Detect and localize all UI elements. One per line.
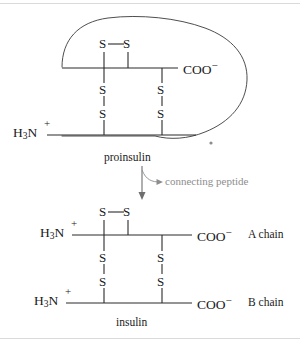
insulin-intrachain-s-left: S [99, 205, 106, 218]
proinsulin-intrachain-s-left: S [99, 37, 106, 50]
proinsulin-intrachain-s-right: S [123, 37, 130, 50]
proinsulin-n-terminus-element: N [28, 125, 38, 140]
insulin-a-chain-n-terminus-element: N [55, 225, 65, 240]
connecting-peptide-loop [62, 16, 247, 138]
proinsulin-n-terminus-charge: + [44, 118, 50, 129]
insulin-a-chain-n-terminus-charge: + [71, 218, 77, 229]
insulin-a-chain-c-terminus: COO− [197, 227, 232, 243]
insulin-intrachain-s-right: S [123, 205, 130, 218]
insulin-b-chain-c-terminus-text: COO [197, 297, 226, 312]
insulin-b-chain-label: B chain [248, 297, 283, 309]
loop-tail-dot [209, 141, 212, 144]
insulin-a-chain-label: A chain [248, 229, 283, 241]
insulin-interchain-right-s-top: S [157, 251, 164, 264]
insulin-b-chain-n-terminus-charge: + [65, 286, 71, 297]
proinsulin-interchain-right-s-bottom: S [157, 107, 164, 120]
connecting-peptide-annotation: connecting peptide [165, 176, 248, 187]
insulin-b-chain-c-terminus: COO− [197, 295, 232, 311]
insulin-b-chain-n-terminus-element: N [49, 293, 59, 308]
insulin-interchain-right-s-bottom: S [157, 275, 164, 288]
insulin-a-chain-c-terminus-text: COO [197, 229, 226, 244]
insulin-a-chain-n-terminus-h: H [40, 225, 50, 240]
insulin-interchain-left-s-bottom: S [99, 275, 106, 288]
insulin-a-chain-c-terminus-charge: − [226, 226, 232, 238]
connecting-peptide-callout-arrowhead [157, 179, 164, 185]
proinsulin-c-terminus-charge: − [212, 59, 218, 71]
figure-root: S S S S S S + H3N COO− proinsulin connec… [0, 0, 300, 344]
proinsulin-interchain-left-s-bottom: S [99, 107, 106, 120]
insulin-interchain-left-s-top: S [99, 251, 106, 264]
insulin-caption: insulin [116, 317, 147, 329]
reaction-arrow-head [139, 192, 146, 200]
structure-drawing [0, 0, 300, 344]
insulin-a-chain-n-terminus: + H3N [40, 226, 64, 242]
insulin-b-chain-n-terminus-h: H [34, 293, 44, 308]
proinsulin-c-terminus-text: COO [183, 62, 212, 77]
proinsulin-interchain-right-s-top: S [157, 83, 164, 96]
proinsulin-c-terminus: COO− [183, 60, 218, 76]
insulin-b-chain-c-terminus-charge: − [226, 294, 232, 306]
proinsulin-n-terminus: + H3N [13, 126, 37, 142]
proinsulin-caption: proinsulin [104, 152, 151, 164]
proinsulin-n-terminus-h: H [13, 125, 23, 140]
proinsulin-interchain-left-s-top: S [99, 83, 106, 96]
insulin-b-chain-n-terminus: + H3N [34, 294, 58, 310]
